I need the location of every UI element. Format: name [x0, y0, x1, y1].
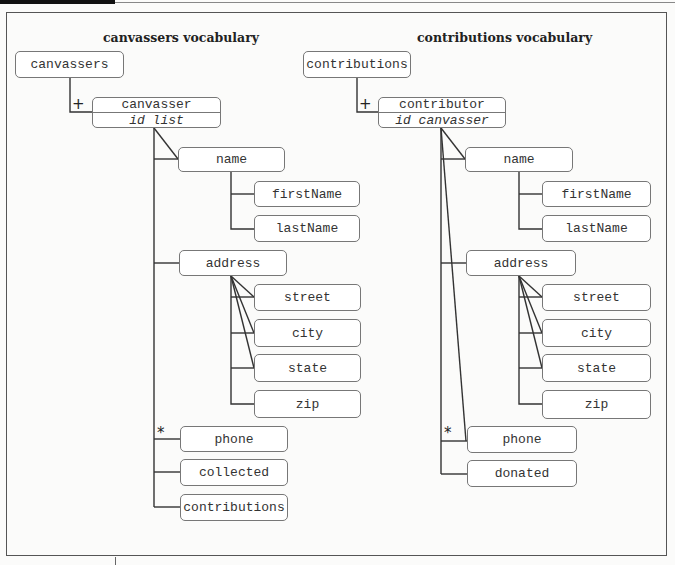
node-zip: zip [542, 390, 651, 419]
element-attributes: id canvasser [379, 113, 505, 128]
node-lastname: lastName [254, 215, 360, 242]
node-city: city [542, 319, 651, 347]
node-firstname: firstName [254, 181, 360, 207]
node-state: state [254, 354, 361, 382]
node-lastname: lastName [542, 215, 651, 242]
node-address: address [179, 250, 287, 276]
contributions-vocabulary-title: contributions vocabulary [417, 30, 592, 45]
element-attributes: id list [93, 113, 220, 128]
node-contributor: contributor id canvasser [378, 97, 506, 128]
node-contributions: contributions [180, 494, 288, 521]
one-or-more-marker: + [72, 97, 85, 112]
node-collected: collected [180, 459, 288, 486]
node-address: address [466, 250, 576, 276]
node-state: state [542, 354, 651, 382]
node-name: name [178, 147, 285, 172]
zero-or-more-marker: * [157, 426, 165, 441]
node-city: city [254, 319, 361, 347]
node-street: street [542, 284, 651, 311]
node-zip: zip [254, 390, 361, 418]
one-or-more-marker: + [359, 97, 372, 112]
node-contributions-root: contributions [303, 51, 411, 78]
node-canvasser: canvasser id list [92, 97, 221, 128]
node-name: name [465, 147, 573, 172]
node-phone: phone [467, 426, 577, 453]
element-name: contributor [379, 97, 505, 113]
element-name: canvasser [93, 97, 220, 113]
canvassers-vocabulary-title: canvassers vocabulary [103, 30, 259, 45]
zero-or-more-marker: * [444, 426, 452, 441]
node-canvassers: canvassers [15, 51, 124, 78]
node-donated: donated [467, 460, 577, 487]
node-street: street [254, 284, 361, 311]
node-phone: phone [180, 426, 288, 452]
node-firstname: firstName [542, 181, 651, 207]
